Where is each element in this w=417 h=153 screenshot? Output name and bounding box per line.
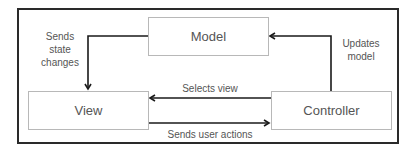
model-label: Model bbox=[191, 29, 226, 44]
label-selects-view: Selects view bbox=[170, 82, 250, 95]
view-node: View bbox=[28, 91, 149, 130]
label-sends-state-changes: Sends state changes bbox=[38, 30, 82, 69]
label-updates-model: Updates model bbox=[336, 37, 386, 63]
model-node: Model bbox=[148, 17, 269, 56]
controller-node: Controller bbox=[271, 91, 392, 130]
controller-label: Controller bbox=[303, 103, 359, 118]
label-line: model bbox=[336, 50, 386, 63]
label-sends-user-actions: Sends user actions bbox=[150, 128, 270, 141]
label-line: Updates bbox=[336, 37, 386, 50]
view-label: View bbox=[75, 103, 103, 118]
arrow-model-to-view bbox=[88, 36, 148, 89]
arrow-controller-to-model bbox=[270, 36, 331, 91]
label-line: Sends bbox=[38, 30, 82, 43]
label-line: changes bbox=[38, 56, 82, 69]
label-line: state bbox=[38, 43, 82, 56]
